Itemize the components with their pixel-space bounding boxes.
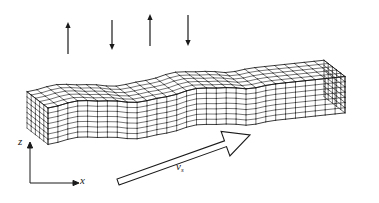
- axis-arrowhead-x: [73, 180, 79, 185]
- velocity-subscript: s: [181, 166, 184, 174]
- velocity-arrow: [117, 132, 250, 185]
- arrow-head: [65, 22, 70, 28]
- arrow-head: [147, 14, 152, 20]
- arrow-head: [109, 44, 114, 50]
- diagram-canvas: [0, 0, 379, 203]
- motion-arrow-group: [65, 14, 190, 54]
- arrow-head: [185, 40, 190, 46]
- axis-arrowhead-z: [27, 142, 32, 148]
- wave-slab-diagram: z x vs: [0, 0, 379, 203]
- axis-indicator: [27, 142, 79, 186]
- velocity-arrow-label: vs: [176, 160, 184, 174]
- axis-label-x: x: [80, 174, 85, 186]
- slab-mesh: [27, 60, 345, 144]
- velocity-arrow-shape: [117, 132, 250, 185]
- axis-label-z: z: [18, 135, 22, 147]
